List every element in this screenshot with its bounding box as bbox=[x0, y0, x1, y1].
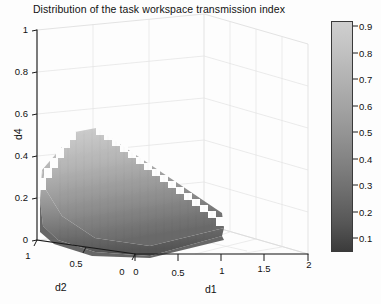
colorbar-ticks bbox=[331, 16, 361, 261]
x-tick-label: 2 bbox=[297, 259, 321, 270]
x-tick-label: 0.5 bbox=[164, 267, 192, 278]
z-axis-ticks bbox=[32, 30, 37, 241]
colorbar-tick-label: 0.5 bbox=[359, 127, 372, 138]
x-tick-label: 1.5 bbox=[250, 263, 278, 274]
z-tick-label: 1 bbox=[8, 24, 28, 35]
colorbar-tick-label: 0.1 bbox=[359, 233, 372, 244]
colorbar-tick-label: 0.3 bbox=[359, 180, 372, 191]
x-axis-title: d1 bbox=[205, 283, 217, 295]
y-tick-label: 1 bbox=[16, 250, 40, 261]
x-tick-label: 1 bbox=[210, 265, 234, 276]
z-tick-label: 0 bbox=[8, 234, 28, 245]
z-tick-label: 0.2 bbox=[0, 192, 28, 203]
y-axis-title: d2 bbox=[55, 281, 67, 293]
axes-3d bbox=[0, 0, 381, 304]
y-tick-label: 0.5 bbox=[62, 258, 90, 269]
colorbar-tick-label: 0.2 bbox=[359, 207, 372, 218]
colorbar-tick-label: 0.4 bbox=[359, 154, 372, 165]
colorbar-tick-label: 0.7 bbox=[359, 74, 372, 85]
z-axis-title: d4 bbox=[12, 128, 24, 140]
z-tick-label: 0.4 bbox=[0, 150, 28, 161]
surface-plot bbox=[38, 120, 226, 260]
figure-canvas: Distribution of the task workspace trans… bbox=[0, 0, 381, 304]
z-tick-label: 0.6 bbox=[0, 108, 28, 119]
colorbar-tick-label: 0.6 bbox=[359, 101, 372, 112]
colorbar-tick-label: 0.9 bbox=[359, 21, 372, 32]
x-tick-label: 0 bbox=[124, 266, 148, 277]
z-tick-label: 0.8 bbox=[0, 66, 28, 77]
colorbar-tick-label: 0.8 bbox=[359, 48, 372, 59]
